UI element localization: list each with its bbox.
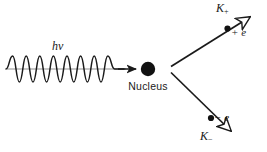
electron-charge-label: − e <box>214 112 229 123</box>
k-plus-symbol: K <box>216 1 224 15</box>
positron-dot <box>224 25 230 31</box>
k-plus-subscript: + <box>224 7 229 16</box>
photon-energy-label: hν <box>52 40 63 52</box>
k-minus-symbol: K <box>200 129 208 143</box>
electron-kinetic-energy-label: K− <box>200 130 213 144</box>
k-minus-subscript: − <box>208 135 213 144</box>
pair-production-figure: hν Nucleus K+ + e − e K− <box>0 0 267 152</box>
positron-kinetic-energy-label: K+ <box>216 2 229 16</box>
positron-track <box>171 17 250 67</box>
figure-canvas <box>0 0 267 152</box>
nucleus-label: Nucleus <box>122 81 174 92</box>
nucleus-dot <box>141 62 155 76</box>
positron-charge-label: + e <box>231 27 246 38</box>
